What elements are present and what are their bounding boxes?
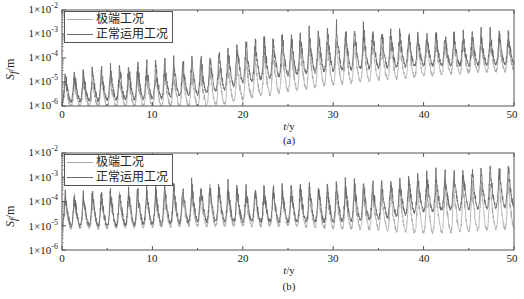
panel-b: 1×10-2 1×10-3 1×10-4 1×10-5 1×10-6 Sf/m …	[0, 145, 524, 299]
xtick: 40	[419, 252, 430, 264]
xtick: 50	[507, 108, 518, 120]
xtick: 30	[328, 252, 339, 264]
y-axis-label: Sf/m	[3, 59, 19, 80]
x-axis-label: t/y	[283, 264, 295, 276]
xtick: 0	[59, 252, 65, 264]
ytick: 1×10-3	[0, 171, 58, 183]
legend: 极端工况 正常运用工况	[64, 154, 173, 186]
ytick: 1×10-2	[0, 3, 58, 15]
legend-item-extreme: 极端工况	[67, 155, 168, 170]
legend: 极端工况 正常运用工况	[64, 11, 173, 43]
xtick: 50	[507, 252, 518, 264]
legend-item-extreme: 极端工况	[67, 12, 168, 27]
xtick: 40	[419, 108, 430, 120]
panel-a: 1×10-2 1×10-3 1×10-4 1×10-5 1×10-6 Sf/m …	[0, 0, 524, 148]
xtick: 10	[147, 252, 158, 264]
legend-swatch-extreme	[67, 162, 93, 163]
ytick: 1×10-2	[0, 146, 58, 158]
ytick: 1×10-3	[0, 27, 58, 39]
legend-swatch-extreme	[67, 19, 93, 20]
xtick: 20	[238, 108, 249, 120]
panel-caption: (b)	[283, 280, 296, 292]
legend-swatch-normal	[67, 34, 93, 35]
ytick: 1×10-6	[0, 99, 58, 111]
y-axis-label: Sf/m	[3, 206, 19, 227]
legend-item-normal: 正常运用工况	[67, 170, 168, 185]
xtick: 10	[147, 108, 158, 120]
ytick: 1×10-6	[0, 244, 58, 256]
xtick: 0	[59, 108, 65, 120]
legend-item-normal: 正常运用工况	[67, 27, 168, 42]
xtick: 30	[328, 108, 339, 120]
legend-swatch-normal	[67, 177, 93, 178]
x-axis-label: t/y	[283, 120, 295, 132]
xtick: 20	[238, 252, 249, 264]
